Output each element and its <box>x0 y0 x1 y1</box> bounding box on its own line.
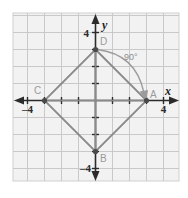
x-axis-tick-4: 4 <box>161 103 167 115</box>
vertex-dot-B <box>93 149 98 154</box>
y-axis-label: y <box>100 18 108 32</box>
coordinate-plane-figure: D A B C 90° y x 4 –4 –4 4 <box>0 0 188 198</box>
vertex-label-C: C <box>34 85 41 96</box>
x-axis-tick-minus4: –4 <box>21 103 34 115</box>
y-axis-tick-minus4: –4 <box>79 162 92 174</box>
x-axis-label: x <box>164 84 171 98</box>
angle-90-label: 90° <box>124 52 138 62</box>
y-axis-tick-4: 4 <box>84 27 90 39</box>
vertex-label-D: D <box>100 36 107 47</box>
vertex-label-A: A <box>150 89 157 100</box>
vertex-dot-C <box>42 98 47 103</box>
vertex-label-B: B <box>100 153 107 164</box>
vertex-dot-A <box>144 98 149 103</box>
vertex-dot-D <box>93 47 98 52</box>
